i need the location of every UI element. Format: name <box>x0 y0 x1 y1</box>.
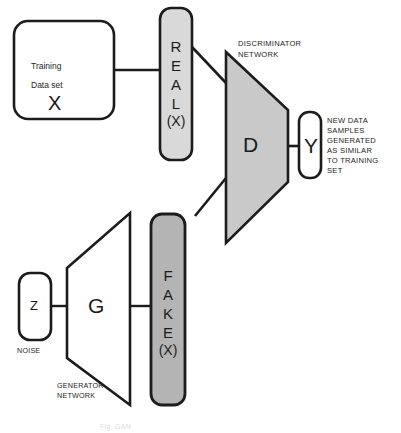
output-y-node <box>299 112 321 178</box>
training-data-box <box>14 21 114 119</box>
connector-real-to-discriminator <box>192 47 226 83</box>
figure-caption: Fig. GAN <box>100 423 131 430</box>
gan-diagram: Training Data set X R E A L (X) F A K E … <box>0 0 401 433</box>
generator-shape <box>67 213 130 405</box>
noise-z-node <box>19 273 51 340</box>
fake-x-node <box>151 214 185 405</box>
discriminator-shape <box>226 52 288 243</box>
connector-fake-to-discriminator <box>195 178 226 216</box>
real-x-node <box>160 8 192 160</box>
diagram-canvas <box>0 0 401 433</box>
connector-fake-to-discriminator-lower <box>183 212 226 258</box>
